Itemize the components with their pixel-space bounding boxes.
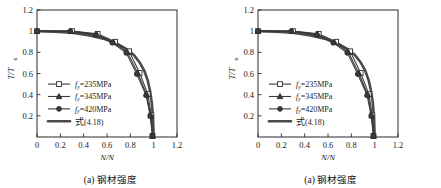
y-tick-label: 0.2 — [22, 111, 33, 121]
y-tick-label: 0.8 — [243, 47, 254, 57]
chart-panel-b: 00.20.40.60.811.20.20.40.60.811.2N/NuT/T… — [221, 0, 441, 188]
svg-text:fy=235MPa: fy=235MPa — [75, 80, 112, 90]
series-marker-2 — [144, 93, 149, 98]
x-axis-title: N/Nu — [320, 153, 346, 160]
legend-marker-0 — [277, 82, 282, 87]
legend-item-formula: 式(4.18) — [75, 116, 104, 127]
series-marker-2 — [94, 32, 99, 37]
x-tick-label: 1.2 — [172, 140, 183, 150]
legend-item-345: fy=345MPa — [75, 92, 112, 102]
series-marker-2 — [35, 29, 40, 34]
x-tick-label: 0.4 — [299, 140, 310, 150]
legend-item-formula: 式(4.18) — [296, 116, 325, 127]
x-tick-label: 0.8 — [125, 140, 136, 150]
y-tick-label: 0.6 — [243, 69, 254, 79]
series-marker-2 — [255, 29, 260, 34]
legend-item-420: fy=420MPa — [296, 105, 333, 115]
svg-text:u: u — [122, 159, 125, 161]
svg-text:式(4.18): 式(4.18) — [75, 116, 104, 127]
series-marker-2 — [330, 40, 335, 45]
legend-marker-0 — [57, 82, 62, 87]
svg-text:N/N: N/N — [99, 153, 115, 160]
x-tick-label: 0.2 — [55, 140, 66, 150]
plot-svg-b: 00.20.40.60.811.20.20.40.60.811.2N/NuT/T… — [221, 0, 441, 160]
y-tick-label: 1 — [29, 26, 33, 36]
x-tick-label: 1 — [372, 140, 376, 150]
y-tick-label: 1 — [249, 26, 253, 36]
svg-text:fy=345MPa: fy=345MPa — [75, 92, 112, 102]
plot-area-a: 00.20.40.60.811.20.20.40.60.811.2N/NuT/T… — [0, 0, 221, 160]
svg-text:u: u — [343, 159, 346, 161]
x-tick-label: 0.6 — [322, 140, 333, 150]
x-tick-label: 0.2 — [276, 140, 287, 150]
svg-text:fy=420MPa: fy=420MPa — [296, 105, 333, 115]
x-tick-label: 1.2 — [392, 140, 403, 150]
plot-svg-a: 00.20.40.60.811.20.20.40.60.811.2N/NuT/T… — [0, 0, 221, 160]
x-tick-label: 1 — [152, 140, 156, 150]
y-tick-label: 1.2 — [243, 5, 254, 15]
series-marker-2 — [368, 113, 373, 118]
chart-panel-a: 00.20.40.60.811.20.20.40.60.811.2N/NuT/T… — [0, 0, 221, 188]
series-marker-2 — [344, 50, 349, 55]
legend-marker-2 — [57, 106, 62, 111]
svg-text:fy=420MPa: fy=420MPa — [75, 105, 112, 115]
series-marker-2 — [148, 113, 153, 118]
series-marker-2 — [314, 32, 319, 37]
svg-text:u: u — [12, 58, 18, 61]
svg-text:T/T: T/T — [6, 66, 16, 79]
svg-text:T/T: T/T — [227, 66, 237, 79]
legend-item-345: fy=345MPa — [296, 92, 333, 102]
y-axis-title: T/Tu — [6, 58, 18, 80]
x-tick-label: 0 — [35, 140, 39, 150]
x-tick-label: 0.4 — [78, 140, 89, 150]
svg-text:fy=235MPa: fy=235MPa — [296, 80, 333, 90]
series-marker-2 — [364, 93, 369, 98]
figure-row: 00.20.40.60.811.20.20.40.60.811.2N/NuT/T… — [0, 0, 441, 188]
series-marker-2 — [355, 72, 360, 77]
y-tick-label: 0.2 — [243, 111, 254, 121]
y-tick-label: 0.4 — [243, 90, 254, 100]
legend-item-235: fy=235MPa — [75, 80, 112, 90]
series-marker-2 — [134, 72, 139, 77]
y-tick-label: 0.4 — [22, 90, 33, 100]
legend-item-235: fy=235MPa — [296, 80, 333, 90]
svg-text:u: u — [232, 58, 238, 61]
x-axis-title: N/Nu — [99, 153, 125, 160]
plot-area-b: 00.20.40.60.811.20.20.40.60.811.2N/NuT/T… — [221, 0, 441, 160]
panel-caption-a: (a) 钢材强度 — [0, 172, 221, 186]
panel-caption-b: (a) 钢材强度 — [221, 172, 441, 186]
series-marker-2 — [371, 134, 376, 139]
y-tick-label: 0.6 — [22, 69, 33, 79]
x-tick-label: 0.6 — [102, 140, 113, 150]
y-tick-label: 1.2 — [22, 5, 33, 15]
plot-frame — [37, 10, 177, 137]
legend-marker-2 — [277, 106, 282, 111]
svg-text:N/N: N/N — [320, 153, 336, 160]
x-tick-label: 0.8 — [346, 140, 357, 150]
y-tick-label: 0.8 — [22, 47, 33, 57]
legend: fy=235MPafy=345MPafy=420MPa式(4.18) — [48, 80, 112, 127]
svg-text:fy=345MPa: fy=345MPa — [296, 92, 333, 102]
series-marker-2 — [68, 29, 73, 34]
legend-item-420: fy=420MPa — [75, 105, 112, 115]
y-axis-title: T/Tu — [227, 58, 239, 80]
legend: fy=235MPafy=345MPafy=420MPa式(4.18) — [269, 80, 333, 127]
x-tick-label: 0 — [255, 140, 259, 150]
svg-text:式(4.18): 式(4.18) — [296, 116, 325, 127]
plot-frame — [258, 10, 398, 137]
series-marker-2 — [150, 134, 155, 139]
series-marker-2 — [110, 40, 115, 45]
series-marker-2 — [124, 50, 129, 55]
series-marker-2 — [288, 29, 293, 34]
